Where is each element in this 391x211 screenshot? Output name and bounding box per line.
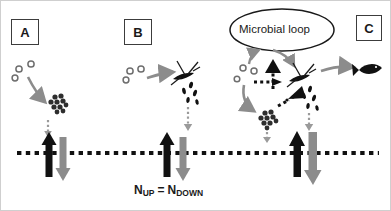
n-up-subscript: UP [143,188,155,198]
panel-label-a: A [11,19,39,45]
panel-label-c: C [356,15,382,41]
nutrient-dots-c [234,65,257,82]
panel-label-c-text: C [364,21,373,36]
panel-label-b-text: B [133,25,142,40]
n-down-subscript: DOWN [176,188,203,198]
bacterial-aggregate-c [258,109,278,130]
equals-sign: = [154,183,167,197]
fish-icon [352,64,382,76]
n-up-symbol: N [134,183,143,197]
loop-in-arrow-left [249,50,259,64]
phytoplankton-b [171,61,200,85]
sedimentation-arrow-c [243,85,254,111]
N-down-flux-A [56,137,71,181]
panel-label-b: B [124,19,152,45]
uptake-arrow-b [147,72,173,78]
loop-out-arrow-right [273,50,294,66]
trophic-transfer-arrow [321,67,353,71]
N-down-flux-C [304,132,322,185]
figure-container: A B C Microbial loop NUP=NDOWN [0,0,391,211]
sinking-arrow-b [184,107,192,131]
uptake-arrow-a [28,77,45,102]
N-down-flux-B [176,137,191,181]
phytoplankton-c [287,63,316,87]
nutrient-dots-b [123,66,144,83]
nutrient-dots-a [12,61,34,81]
flux-balance-equation: NUP=NDOWN [134,183,203,197]
panel-label-a-text: A [20,25,29,40]
detritus-particles-b [182,81,200,105]
n-down-symbol: N [168,183,177,197]
bacterial-aggregate-a [48,93,68,114]
diagram-canvas [1,1,391,211]
microbial-loop-label: Microbial loop [239,23,310,35]
sinking-arrow-c-left [263,132,271,143]
sinking-arrow-c-right [305,113,313,131]
grazing-arrow-right-c [254,78,282,86]
